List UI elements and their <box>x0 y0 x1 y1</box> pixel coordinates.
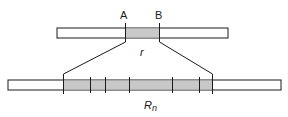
diagram: A B r Rn <box>0 0 288 117</box>
label-b: B <box>155 9 162 21</box>
label-a: A <box>120 9 128 21</box>
label-r: r <box>140 46 145 58</box>
bottom-bar: Rn <box>8 74 281 113</box>
shaded-region-rn <box>64 81 213 90</box>
top-bar: A B <box>57 9 228 42</box>
label-rn: Rn <box>144 99 157 113</box>
expansion-lines: r <box>64 42 213 74</box>
shaded-region-ab <box>126 29 160 38</box>
